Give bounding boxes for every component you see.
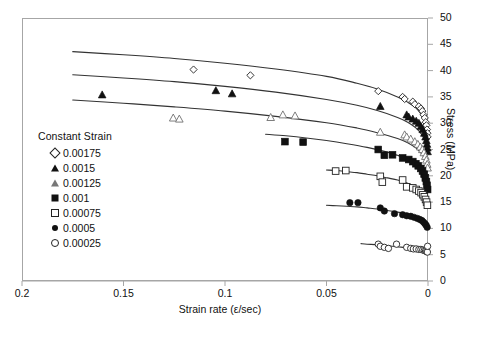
filled-circle-icon <box>48 222 61 233</box>
legend-item-0.00025[interactable]: 0.00025 <box>38 235 112 250</box>
legend-title: Constant Strain <box>38 130 112 142</box>
legend-item-label: 0.00175 <box>63 147 101 159</box>
x-tick-label: 0 <box>408 287 448 299</box>
y-tick-label: 35 <box>440 91 464 101</box>
y-tick-label: 0 <box>440 275 464 285</box>
figure-scatter-stress-vs-strain-rate: 05101520253035404550 0.20.150.10.050 Str… <box>0 0 495 344</box>
legend-items: 0.001750.00150.001250.0010.000750.00050.… <box>38 145 112 250</box>
y-tick-label: 50 <box>440 12 464 22</box>
y-tick-label: 5 <box>440 249 464 259</box>
x-tick-label: 0.1 <box>205 287 245 299</box>
y-tick-label: 40 <box>440 65 464 75</box>
x-tick-label: 0.15 <box>104 287 144 299</box>
open-triangle-icon <box>48 177 61 188</box>
legend-item-0.0015[interactable]: 0.0015 <box>38 160 112 175</box>
y-tick-label: 15 <box>440 196 464 206</box>
open-square-icon <box>48 207 61 218</box>
legend-item-label: 0.001 <box>63 192 89 204</box>
legend-item-label: 0.00075 <box>63 207 101 219</box>
open-diamond-icon <box>48 147 61 158</box>
legend-item-label: 0.0005 <box>63 222 95 234</box>
legend-item-0.001[interactable]: 0.001 <box>38 190 112 205</box>
legend-item-label: 0.00125 <box>63 177 101 189</box>
x-tick-label: 0.05 <box>307 287 347 299</box>
legend-item-label: 0.00025 <box>63 237 101 249</box>
legend-item-0.00125[interactable]: 0.00125 <box>38 175 112 190</box>
y-tick-label: 45 <box>440 38 464 48</box>
x-axis-title: Strain rate (ε/sec) <box>0 303 440 315</box>
y-tick-label: 10 <box>440 222 464 232</box>
open-circle-icon <box>48 237 61 248</box>
y-tick-label: 20 <box>440 170 464 180</box>
legend: Constant Strain 0.001750.00150.001250.00… <box>38 130 112 250</box>
filled-triangle-icon <box>48 162 61 173</box>
legend-item-0.00175[interactable]: 0.00175 <box>38 145 112 160</box>
x-tick-label: 0.2 <box>2 287 42 299</box>
legend-item-0.0005[interactable]: 0.0005 <box>38 220 112 235</box>
filled-square-icon <box>48 192 61 203</box>
legend-item-label: 0.0015 <box>63 162 95 174</box>
legend-item-0.00075[interactable]: 0.00075 <box>38 205 112 220</box>
figure-caption-fragment <box>6 337 426 344</box>
y-axis-title: Stress (MPa) <box>445 108 457 122</box>
